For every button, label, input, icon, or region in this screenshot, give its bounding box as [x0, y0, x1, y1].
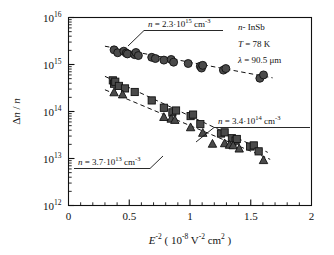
- annotation-triangles: n = 3.7·1013 cm-3: [78, 155, 141, 167]
- figure-container: 10121013101410151016 00.511.52 Δn / n E-…: [0, 0, 334, 255]
- data-point-square: [172, 107, 179, 114]
- data-point-circle: [123, 50, 131, 58]
- x-tick-label: 2: [309, 210, 315, 222]
- y-tick-label: 1015: [43, 57, 62, 71]
- trend-line: [105, 76, 268, 152]
- chart-canvas: 10121013101410151016 00.511.52 Δn / n E-…: [0, 0, 334, 255]
- data-point-square: [160, 104, 167, 111]
- x-axis-title: E-2 ( 10-8 V-2 cm2 ): [148, 232, 232, 247]
- legend-temperature: T = 78 K: [238, 39, 271, 49]
- y-tick-label: 1013: [43, 151, 62, 165]
- x-tick-label: 1.5: [244, 210, 258, 222]
- data-point-circle: [260, 71, 268, 79]
- data-point-circle: [222, 65, 230, 73]
- y-tick-label: 1014: [43, 104, 62, 118]
- x-tick-label: 0: [66, 210, 72, 222]
- data-point-square: [189, 111, 196, 118]
- data-point-circle: [160, 56, 168, 64]
- data-point-square: [221, 129, 228, 136]
- annotation-circles: n = 2.3·1015 cm-3: [148, 17, 211, 29]
- legend-wavelength: λ = 90.5 μm: [237, 55, 281, 65]
- annotation-squares: n = 3.4·1014 cm-3: [218, 114, 281, 126]
- x-tick-label: 1: [187, 210, 193, 222]
- y-tick-label: 1012: [43, 198, 62, 212]
- data-point-circle: [134, 52, 142, 60]
- x-tick-label: 0.5: [122, 210, 136, 222]
- data-point-circle: [184, 60, 192, 68]
- data-point-circle: [199, 61, 207, 69]
- data-point-circle: [170, 58, 178, 66]
- data-point-square: [197, 120, 204, 127]
- y-axis-label: Δn / n: [10, 98, 22, 125]
- data-point-triangle: [160, 113, 168, 121]
- legend-material: n- InSb: [238, 22, 265, 32]
- data-point-triangle: [259, 156, 267, 164]
- data-point-square: [148, 97, 155, 104]
- data-point-circle: [151, 55, 159, 63]
- y-axis-title: Δn / n: [10, 98, 22, 125]
- series-annotations: n = 2.3·1015 cm-3n = 3.4·1014 cm-3n = 3.…: [74, 17, 310, 169]
- data-point-square: [131, 88, 138, 95]
- legend-block: n- InSbT = 78 Kλ = 90.5 μm: [237, 22, 281, 65]
- data-point-triangle: [208, 139, 216, 147]
- x-axis-ticks: 00.511.52: [66, 200, 315, 222]
- data-point-square: [255, 148, 262, 155]
- y-axis-ticks: 10121013101410151016: [43, 10, 75, 212]
- y-tick-label: 1016: [43, 10, 62, 24]
- x-axis-label: E-2 ( 10-8 V-2 cm2 ): [148, 232, 232, 247]
- data-point-square: [233, 135, 240, 142]
